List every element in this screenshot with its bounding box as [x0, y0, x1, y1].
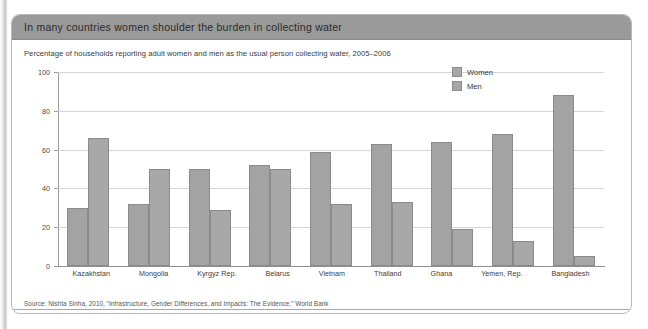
x-axis-label-thailand: Thailand — [374, 269, 402, 278]
bar-men-bangladesh[interactable] — [574, 256, 595, 266]
y-tick-mark-0 — [54, 266, 58, 267]
legend-swatch-women — [452, 67, 462, 77]
bar-group-thailand — [371, 72, 413, 266]
y-tick-label-0: 0 — [26, 262, 50, 271]
bar-men-thailand[interactable] — [392, 202, 413, 266]
bar-men-kazakhstan[interactable] — [88, 138, 109, 266]
y-tick-label-60: 60 — [26, 145, 50, 154]
bar-women-mongolia[interactable] — [128, 204, 149, 266]
y-tick-label-100: 100 — [26, 68, 50, 77]
bar-men-belarus[interactable] — [270, 169, 291, 266]
x-axis-line — [58, 266, 605, 267]
panel-title-bar: In many countries women shoulder the bur… — [12, 15, 631, 40]
x-axis-label-kazakhstan: Kazakhstan — [73, 269, 111, 278]
x-axis-label-mongolia: Mongolia — [139, 269, 168, 278]
chart-subtitle: Percentage of households reporting adult… — [24, 49, 631, 58]
source-divider — [12, 309, 632, 310]
bar-women-vietnam[interactable] — [310, 152, 331, 266]
y-tick-label-20: 20 — [26, 223, 50, 232]
bar-women-thailand[interactable] — [371, 144, 392, 266]
bar-women-belarus[interactable] — [249, 165, 270, 266]
bar-group-mongolia — [128, 72, 170, 266]
bar-men-yemen-rep[interactable] — [513, 241, 534, 266]
page-title: In many countries women shoulder the bur… — [24, 21, 342, 33]
x-axis-label-bangladesh: Bangladesh — [551, 269, 589, 278]
y-tick-label-80: 80 — [26, 106, 50, 115]
y-tick-label-40: 40 — [26, 184, 50, 193]
legend-label-men: Men — [467, 82, 482, 91]
bar-group-belarus — [249, 72, 291, 266]
bar-women-kyrgyz-rep[interactable] — [189, 169, 210, 266]
page-scan-edge — [0, 0, 7, 329]
bar-group-yemen-rep — [492, 72, 534, 266]
bar-group-kazakhstan — [67, 72, 109, 266]
bar-group-kyrgyz-rep — [189, 72, 231, 266]
bar-women-bangladesh[interactable] — [553, 95, 574, 266]
chart-legend: Women Men — [452, 67, 493, 91]
bar-men-vietnam[interactable] — [331, 204, 352, 266]
legend-label-women: Women — [467, 68, 493, 77]
x-axis-label-kyrgyz-rep: Kyrgyz Rep. — [197, 269, 236, 278]
chart-plot-area: 020406080100 KazakhstanMongoliaKyrgyz Re… — [12, 63, 631, 285]
x-axis-label-yemen-rep: Yemen, Rep. — [481, 269, 522, 278]
x-axis-labels: KazakhstanMongoliaKyrgyz Rep.BelarusViet… — [58, 269, 604, 278]
source-note: Source: Nishta Sinha, 2010, “Infrastruct… — [24, 300, 329, 307]
bar-men-mongolia[interactable] — [149, 169, 170, 266]
bar-group-vietnam — [310, 72, 352, 266]
bar-women-kazakhstan[interactable] — [67, 208, 88, 266]
bar-women-yemen-rep[interactable] — [492, 134, 513, 266]
chart-panel: In many countries women shoulder the bur… — [11, 14, 632, 314]
bar-group-bangladesh — [553, 72, 595, 266]
legend-item-men[interactable]: Men — [452, 81, 493, 91]
x-axis-label-belarus: Belarus — [265, 269, 289, 278]
bar-women-ghana[interactable] — [431, 142, 452, 266]
bar-men-kyrgyz-rep[interactable] — [210, 210, 231, 266]
bar-men-ghana[interactable] — [452, 229, 473, 266]
x-axis-label-ghana: Ghana — [431, 269, 453, 278]
legend-swatch-men — [452, 81, 462, 91]
x-axis-label-vietnam: Vietnam — [319, 269, 345, 278]
bar-groups — [58, 72, 604, 266]
legend-item-women[interactable]: Women — [452, 67, 493, 77]
bar-group-ghana — [431, 72, 473, 266]
